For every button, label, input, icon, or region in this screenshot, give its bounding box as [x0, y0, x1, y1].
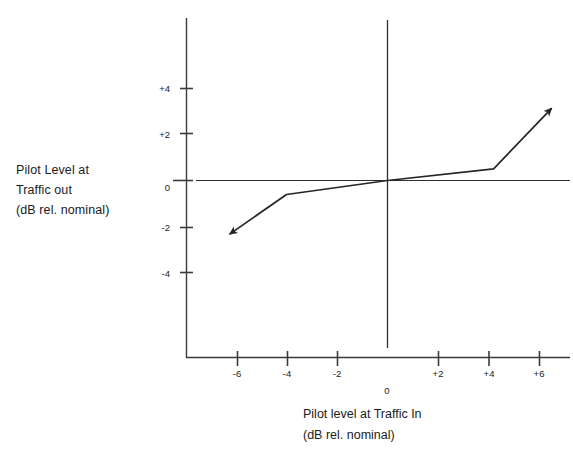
chart-figure: Pilot Level at Traffic out (dB rel. nomi… [0, 0, 573, 466]
plot-canvas [0, 0, 573, 466]
pilot-level-transfer-curve [230, 108, 552, 234]
